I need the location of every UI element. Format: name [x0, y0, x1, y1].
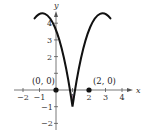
y-tick-label: −1 [41, 103, 53, 112]
x-axis-arrow-icon [127, 88, 133, 92]
point-label-right: (2, 0) [93, 76, 116, 86]
y-tick-label: 2 [47, 53, 52, 62]
point-two-zero [86, 87, 91, 92]
point-origin [53, 87, 58, 92]
parabola-chart: x y −2 −1 1 2 3 4 4 3 2 −1 −2 (0, 0) (2,… [0, 0, 148, 139]
y-tick-label: 3 [47, 36, 52, 45]
x-tick-label: −2 [17, 93, 29, 102]
x-tick-label: 3 [103, 93, 108, 102]
y-axis-arrow-icon [54, 11, 58, 17]
x-tick-label: 2 [87, 93, 92, 102]
x-tick-label: −1 [34, 93, 46, 102]
x-tick-label: 4 [120, 93, 125, 102]
point-label-left: (0, 0) [32, 76, 55, 86]
x-axis-label: x [136, 86, 141, 95]
y-tick-label: −2 [41, 119, 53, 128]
y-axis-label: y [53, 1, 59, 10]
